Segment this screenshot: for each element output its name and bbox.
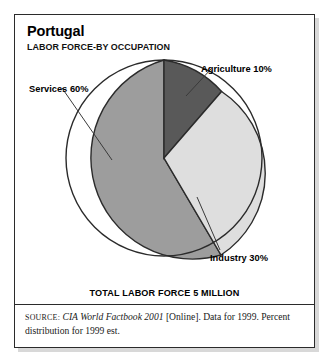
source-publication: CIA World Factbook 2001 [62, 311, 163, 322]
source-note: Source: CIA World Factbook 2001 [Online]… [25, 311, 305, 337]
figure-frame: Portugal LABOR FORCE-BY OCCUPATION Servi… [14, 14, 315, 348]
total-labor-force-caption: TOTAL LABOR FORCE 5 MILLION [19, 287, 309, 298]
chart-subtitle: LABOR FORCE-BY OCCUPATION [27, 41, 170, 53]
source-label: Source: [25, 313, 60, 322]
pie-label-industry: Industry 30% [210, 252, 268, 263]
page-title: Portugal [27, 23, 176, 39]
pie-label-services: Services 60% [29, 83, 89, 94]
pie-label-agriculture: Agriculture 10% [201, 63, 272, 74]
source-divider [15, 304, 314, 305]
figure-header: Portugal LABOR FORCE-BY OCCUPATION [27, 23, 176, 53]
